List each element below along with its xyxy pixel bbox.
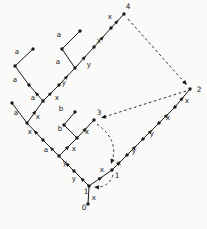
node-number-label: 2: [197, 85, 202, 94]
edge-label: a: [57, 30, 61, 39]
node-dot: [73, 66, 76, 69]
node-dot: [78, 29, 81, 32]
node-dot: [92, 45, 95, 48]
tree-edge: [64, 112, 75, 125]
node-dot: [188, 87, 191, 90]
edge-label: y: [62, 78, 67, 87]
node-dot: [57, 83, 60, 86]
edge-label: x: [97, 36, 102, 45]
node-dot: [57, 154, 60, 157]
fold-1-to-1-arrow-icon: [94, 185, 99, 190]
edge-label: a: [56, 57, 60, 66]
node-dot: [125, 153, 128, 156]
node-dot: [141, 137, 144, 140]
tree-edge: [62, 31, 80, 49]
node-dot: [86, 202, 89, 205]
node-number-label: 4: [126, 2, 131, 11]
node-dot: [173, 105, 176, 108]
fold-4-to-2-dashed-line: [128, 19, 185, 83]
edge-label: x: [117, 158, 122, 167]
edge-label: b: [59, 104, 64, 113]
edge-label: y: [63, 158, 68, 167]
node-dot: [60, 47, 63, 50]
edge-label: x: [55, 93, 60, 102]
edge-label: y: [150, 129, 155, 138]
tree-edge: [62, 49, 75, 68]
edge-label: x: [92, 193, 97, 202]
tree-diagram-figure: xyyaxaxaaaxyaayxxxbbxxxyyxx011234: [0, 0, 207, 229]
edge-label: y: [87, 60, 92, 69]
node-dot: [25, 121, 28, 124]
node-dot: [122, 12, 125, 15]
node-dot: [110, 168, 113, 171]
tree-edge: [64, 125, 77, 138]
fold-1-to-1-dashed-line: [97, 175, 113, 187]
edge-label: a: [44, 145, 48, 154]
node-dot: [31, 47, 34, 50]
fold-4-to-2-arrow-icon: [182, 80, 188, 87]
node-dot: [27, 83, 30, 86]
edge-label: x: [85, 127, 90, 136]
node-dot: [13, 64, 16, 67]
node-dot: [157, 121, 160, 124]
edge-label: y: [132, 146, 137, 155]
fold-3-to-1-dashed-line: [97, 124, 114, 161]
node-dot: [72, 169, 75, 172]
node-dot: [92, 118, 95, 121]
node-dot: [10, 101, 13, 104]
fold-3-to-1-arrow-icon: [109, 159, 115, 165]
edge-label: a: [14, 108, 18, 117]
edge-label: a: [13, 75, 17, 84]
edge-label: x: [100, 165, 105, 174]
edge-label: x: [28, 127, 33, 136]
node-number-label: 3: [97, 108, 102, 117]
node-dot: [62, 123, 65, 126]
edge-label: x: [108, 12, 113, 21]
node-dot: [73, 110, 76, 113]
node-number-label: 1: [115, 171, 120, 180]
node-dot: [109, 26, 112, 29]
edge-label: y: [72, 174, 77, 183]
edge-label: a: [15, 47, 19, 56]
fold-2-to-3-dashed-line: [104, 91, 186, 117]
node-dot: [41, 99, 44, 102]
node-number-label: 0: [82, 203, 87, 212]
node-dot: [41, 138, 44, 141]
edge-label: b: [58, 124, 63, 133]
edge-label: x: [185, 96, 190, 105]
edge-label: x: [166, 113, 171, 122]
tree-diagram-canvas: xyyaxaxaaaxyaayxxxbbxxxyyxx011234: [0, 0, 207, 229]
edge-label: x: [36, 112, 41, 121]
edge-label: a: [31, 93, 35, 102]
edge-label: x: [72, 144, 77, 153]
node-dot: [75, 136, 78, 139]
node-number-label: 1: [84, 187, 89, 196]
